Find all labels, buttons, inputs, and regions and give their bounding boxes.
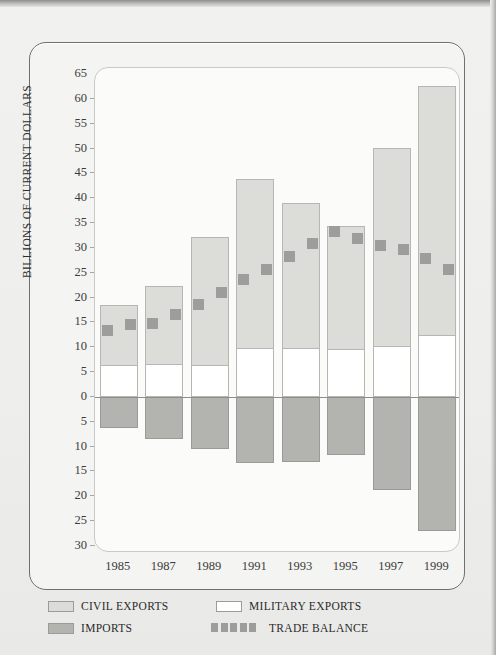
legend-label-trade-balance: TRADE BALANCE [269,622,368,634]
bar-military-exports [191,366,229,397]
y-axis-tick-label: 20 [53,291,87,303]
x-axis: 19851987198919911993199519971999 [94,557,458,579]
y-axis-tick-label: 65 [53,67,87,79]
trade-balance-marker [329,226,340,237]
y-axis-tick-label: 40 [53,191,87,203]
trade-balance-marker [443,264,454,275]
x-axis-tick-label: 1989 [187,559,231,573]
x-axis-tick-label: 1985 [96,559,140,573]
bar-civil-exports [282,203,320,349]
bar-military-exports [418,336,456,397]
legend-label-civil-exports: CIVIL EXPORTS [81,600,168,612]
bar-imports [418,397,456,531]
y-axis-tick-label: 5 [53,365,87,377]
y-axis-title: BILLIONS OF CURRENT DOLLARS [21,85,33,278]
trade-balance-marker [170,309,181,320]
y-axis-tick-label: 10 [53,340,87,352]
trade-balance-marker [125,319,136,330]
military-exports-swatch-icon [216,601,242,612]
x-axis-tick-label: 1997 [369,559,413,573]
trade-balance-marker [261,264,272,275]
x-axis-tick-label: 1999 [414,559,458,573]
x-axis-tick-label: 1991 [232,559,276,573]
bar-military-exports [145,365,183,397]
y-axis-tick-label: 5 [53,415,87,427]
bar-imports [100,397,138,428]
y-axis-tick-label: 35 [53,216,87,228]
page-right-shadow [490,0,496,655]
y-axis-tick-label: 30 [53,241,87,253]
trade-balance-marker [193,299,204,310]
trade-balance-swatch-icon [211,623,257,633]
bar-military-exports [100,366,138,397]
y-axis-tick-label: 15 [53,315,87,327]
page-background: BILLIONS OF CURRENT DOLLARS 656055504540… [0,0,496,655]
bar-imports [191,397,229,449]
trade-balance-marker [375,240,386,251]
bar-military-exports [236,349,274,397]
bar-civil-exports [418,86,456,336]
plot-canvas [95,68,459,551]
trade-balance-marker [307,238,318,249]
page-top-shadow [0,0,496,7]
bar-military-exports [282,349,320,397]
plot-area [94,67,460,552]
y-axis-tick-label: 30 [53,539,87,551]
chart-legend: CIVIL EXPORTS IMPORTS MILITARY EXPORTS T… [48,600,458,644]
bar-imports [145,397,183,439]
trade-balance-marker [284,251,295,262]
trade-balance-marker [398,244,409,255]
bar-imports [327,397,365,455]
x-axis-tick-label: 1987 [141,559,185,573]
y-axis-tick-label: 15 [53,464,87,476]
y-axis-tick-label: 55 [53,117,87,129]
imports-swatch-icon [48,623,74,634]
trade-balance-marker [102,325,113,336]
x-axis-tick-label: 1993 [278,559,322,573]
bar-imports [373,397,411,490]
y-axis-tick-label: 25 [53,266,87,278]
y-axis-tick-label: 10 [53,440,87,452]
zero-axis-line [95,397,459,398]
y-axis-tick-label: 45 [53,166,87,178]
y-axis-tick-label: 50 [53,142,87,154]
trade-balance-marker [216,287,227,298]
trade-balance-marker [420,253,431,264]
y-axis-tick-label: 60 [53,92,87,104]
civil-exports-swatch-icon [48,601,74,612]
bar-imports [282,397,320,462]
legend-item-civil-exports: CIVIL EXPORTS [48,600,168,612]
x-axis-tick-label: 1995 [323,559,367,573]
bar-military-exports [327,350,365,397]
legend-item-imports: IMPORTS [48,622,132,634]
bar-civil-exports [327,226,365,350]
bar-military-exports [373,347,411,397]
legend-item-trade-balance: TRADE BALANCE [211,622,368,634]
trade-balance-marker [352,233,363,244]
legend-label-imports: IMPORTS [81,622,132,634]
y-axis-tick-label: 0 [53,390,87,402]
trade-balance-marker [238,274,249,285]
legend-item-military-exports: MILITARY EXPORTS [216,600,361,612]
bar-imports [236,397,274,463]
y-axis-tick-label: 25 [53,514,87,526]
trade-balance-marker [147,318,158,329]
y-axis-tick-label: 20 [53,489,87,501]
y-axis: BILLIONS OF CURRENT DOLLARS 656055504540… [29,60,95,560]
legend-label-military-exports: MILITARY EXPORTS [249,600,361,612]
